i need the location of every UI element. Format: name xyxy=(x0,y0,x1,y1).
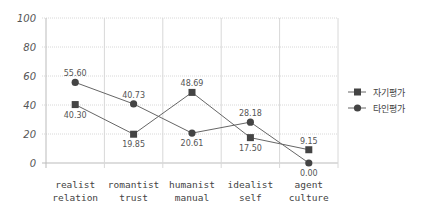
circle-marker xyxy=(305,159,312,166)
square-marker-icon xyxy=(354,89,361,96)
square-marker xyxy=(189,89,196,96)
data-label: 40.30 xyxy=(64,111,87,120)
x-category-label: humanist xyxy=(169,179,215,190)
x-category-label: agent xyxy=(294,179,323,190)
square-marker xyxy=(305,146,312,153)
y-tick-label: 40 xyxy=(23,100,36,111)
data-label: 20.61 xyxy=(181,139,204,148)
x-axis: realistrelationromantisttrusthumanistman… xyxy=(52,179,329,203)
y-axis: 020406080100 xyxy=(17,13,36,169)
legend-label: 자기평가 xyxy=(373,88,405,98)
data-label: 40.73 xyxy=(122,91,145,100)
data-label: 28.18 xyxy=(239,109,262,118)
data-label: 19.85 xyxy=(122,140,145,149)
legend-label: 타인평가 xyxy=(373,104,405,114)
x-category-label: manual xyxy=(175,192,209,203)
circle-marker-icon xyxy=(354,104,361,111)
circle-marker xyxy=(72,79,79,86)
circle-marker xyxy=(130,100,137,107)
y-tick-label: 60 xyxy=(23,71,36,82)
y-tick-label: 20 xyxy=(23,129,36,140)
square-marker xyxy=(72,101,79,108)
x-category-label: idealist xyxy=(228,179,274,190)
data-label: 9.15 xyxy=(300,137,318,146)
line-chart: 020406080100 realistrelationromantisttru… xyxy=(0,0,426,219)
data-label: 55.60 xyxy=(64,69,87,78)
square-marker xyxy=(247,134,254,141)
circle-marker xyxy=(188,130,195,137)
circle-marker xyxy=(247,119,254,126)
y-tick-label: 0 xyxy=(30,158,36,169)
square-marker xyxy=(130,131,137,138)
x-category-label: culture xyxy=(289,192,329,203)
y-tick-label: 100 xyxy=(17,13,36,24)
legend: 자기평가타인평가 xyxy=(348,88,405,114)
x-category-label: realist xyxy=(55,179,95,190)
x-category-label: romantist xyxy=(108,179,159,190)
data-label: 0.00 xyxy=(300,169,318,178)
data-label: 17.50 xyxy=(239,144,262,153)
x-category-label: self xyxy=(239,192,262,203)
x-category-label: relation xyxy=(52,192,98,203)
y-tick-label: 80 xyxy=(23,42,36,53)
data-label: 48.69 xyxy=(181,79,204,88)
x-category-label: trust xyxy=(119,192,148,203)
